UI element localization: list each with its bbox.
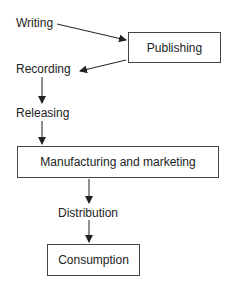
node-manufacturing: Manufacturing and marketing: [17, 146, 219, 178]
node-publishing-label: Publishing: [147, 41, 202, 55]
node-publishing: Publishing: [128, 32, 221, 63]
node-recording: Recording: [16, 62, 71, 76]
arrow-publishing-recording: [80, 60, 126, 71]
node-consumption-label: Consumption: [58, 253, 129, 267]
node-manufacturing-label: Manufacturing and marketing: [40, 155, 195, 169]
node-writing: Writing: [16, 16, 53, 30]
node-consumption: Consumption: [47, 244, 140, 276]
node-releasing: Releasing: [16, 106, 69, 120]
arrow-writing-publishing: [57, 24, 126, 40]
node-distribution: Distribution: [58, 206, 118, 220]
